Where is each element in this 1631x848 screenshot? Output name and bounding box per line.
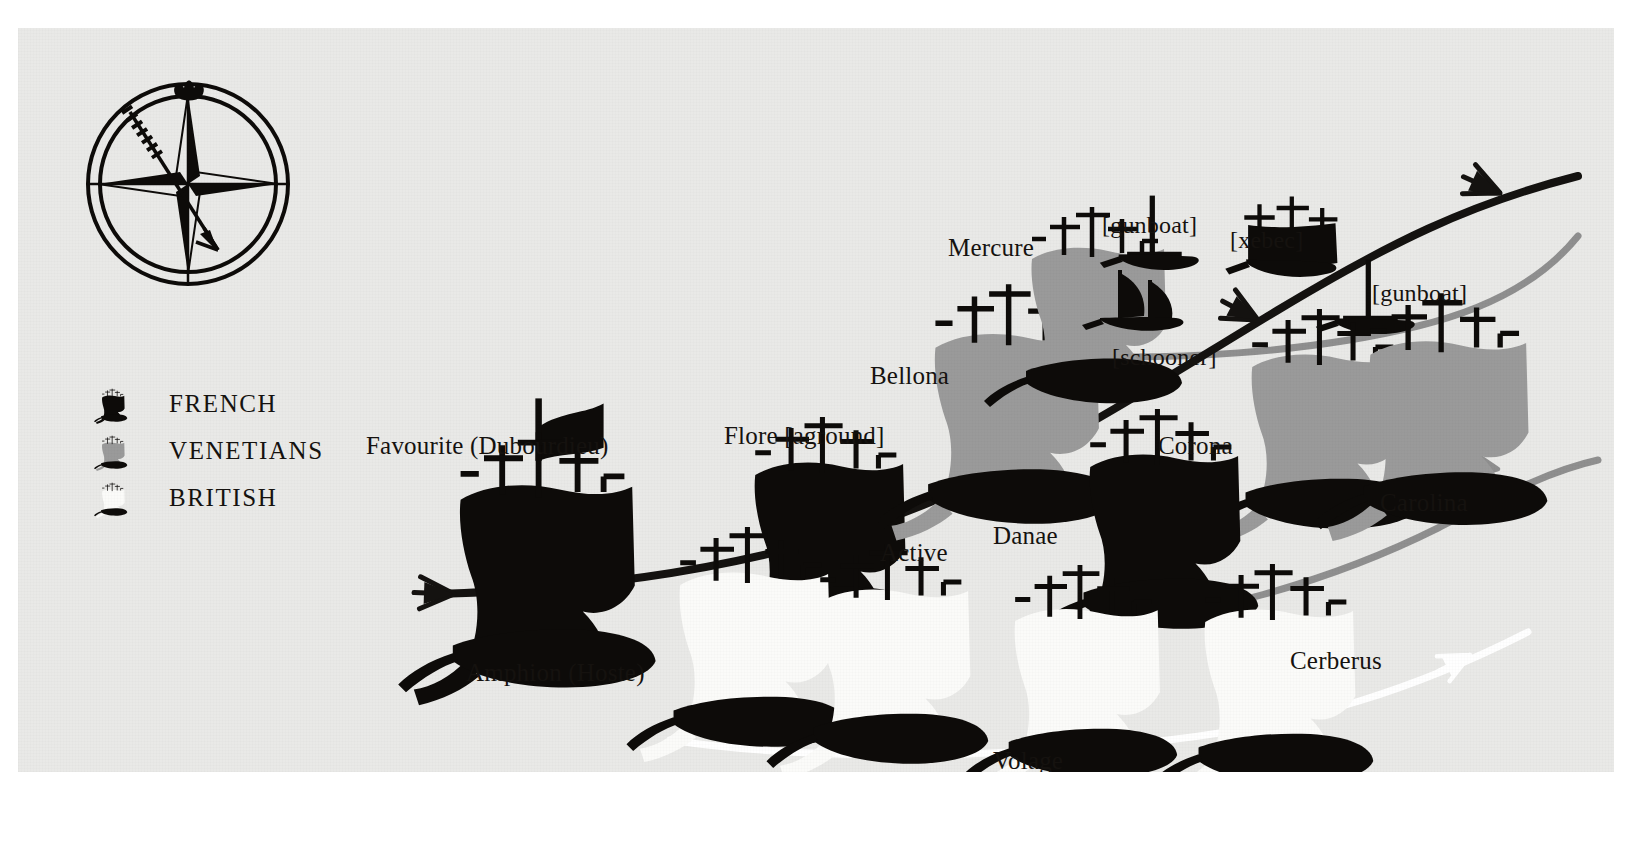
- legend: FRENCH VENETIANS BRITISH: [73, 380, 324, 521]
- legend-label-venetians: VENETIANS: [169, 437, 324, 465]
- ship-label-volage: Volage: [993, 748, 1063, 772]
- venetian-ship-icon: [73, 430, 149, 472]
- ship-label-bellona: Bellona: [870, 363, 949, 388]
- ship-label-amphion: Amphion (Hoste): [466, 660, 645, 685]
- ship-label-corona: Corona: [1158, 433, 1233, 458]
- british-ship-icon: [73, 477, 149, 519]
- ship-label-flore: Flore [aground]: [724, 423, 885, 448]
- ship-label-gunboat-2: [gunboat]: [1372, 281, 1467, 305]
- french-ship-icon: [73, 383, 149, 425]
- ship-label-favourite: Favourite (Dubourdieu): [366, 433, 609, 458]
- compass-rose: [78, 76, 298, 294]
- cropped-running-head: [1380, 0, 1620, 14]
- ship-label-schooner: [schooner]: [1112, 345, 1217, 369]
- legend-item-french[interactable]: FRENCH: [73, 380, 324, 427]
- legend-item-british[interactable]: BRITISH: [73, 474, 324, 521]
- map-panel: FRENCH VENETIANS BRITISH Fav: [18, 28, 1614, 772]
- ship-label-danae: Danae: [993, 523, 1058, 548]
- legend-label-british: BRITISH: [169, 484, 277, 512]
- ship-label-gunboat-1: [gunboat]: [1102, 213, 1197, 237]
- ship-label-active: Active: [880, 540, 948, 565]
- battle-diagram-page: FRENCH VENETIANS BRITISH Fav: [0, 0, 1631, 848]
- ship-label-carolina: Carolina: [1380, 490, 1468, 515]
- ship-label-mercure: Mercure: [948, 235, 1034, 260]
- ship-label-xebec: [xebec]: [1230, 228, 1303, 252]
- legend-item-venetians[interactable]: VENETIANS: [73, 427, 324, 474]
- legend-label-french: FRENCH: [169, 390, 277, 418]
- ship-label-cerberus: Cerberus: [1290, 648, 1382, 673]
